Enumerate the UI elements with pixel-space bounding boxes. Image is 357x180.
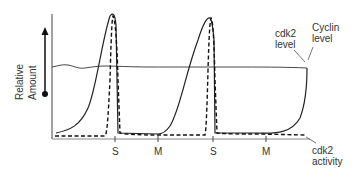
cdk2-level-line (52, 65, 307, 68)
cyclin-level-leader (308, 47, 313, 60)
cdk2-level-leader (294, 50, 305, 62)
tick-label-m2: M (262, 146, 270, 157)
cdk2-activity-label: cdk2 activity (312, 145, 343, 167)
cdk2-activity-line (55, 16, 305, 136)
tick-label-s1: S (112, 146, 119, 157)
cyclin-level-label: Cyclin level (312, 22, 339, 44)
y-label-line2: Amount (27, 66, 38, 100)
y-axis-label: Relative Amount (8, 42, 48, 102)
y-label-line1: Relative (14, 64, 25, 100)
tick-label-m1: M (154, 146, 162, 157)
cyclin-level-line-cycle1 (56, 14, 307, 134)
cdk2-activity-leader (306, 137, 316, 143)
arrow-up-icon (42, 27, 49, 35)
cell-cycle-diagram (0, 0, 357, 180)
cdk2-level-label: cdk2 level (275, 28, 296, 50)
tick-label-s2: S (210, 146, 217, 157)
